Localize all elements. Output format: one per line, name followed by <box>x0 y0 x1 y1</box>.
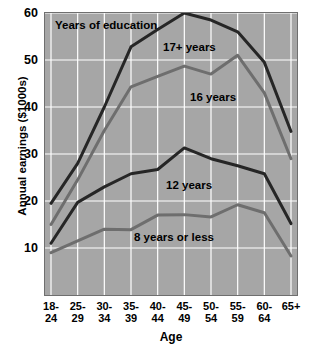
y-axis-tick-label: 50 <box>24 54 38 67</box>
y-axis-tick-label: 20 <box>24 195 38 208</box>
y-axis-tick-label: 30 <box>24 148 38 161</box>
x-axis-tick-label: 35- 39 <box>123 301 139 324</box>
x-axis-tick-label: 60- 64 <box>256 301 272 324</box>
x-axis-tick-label: 45- 49 <box>176 301 192 324</box>
series-label-16-years: 16 years <box>190 91 236 103</box>
x-axis-title: Age <box>44 330 298 344</box>
series-label-12-years: 12 years <box>166 179 212 191</box>
x-axis-tick-label: 18- 24 <box>43 301 59 324</box>
y-axis-tick-labels: 102030405060 <box>0 0 41 300</box>
series-label-17plus-years: 17+ years <box>163 41 216 53</box>
x-axis-tick-label: 30- 34 <box>96 301 112 324</box>
plot-area: Years of education 17+ years 16 years 12… <box>44 12 298 296</box>
x-axis-tick-label: 65+ <box>282 301 301 313</box>
x-axis-tick-labels: 18- 2425- 2930- 3435- 3940- 4445- 4950- … <box>44 299 298 333</box>
y-axis-tick-label: 10 <box>24 242 38 255</box>
x-axis-tick-label: 25- 29 <box>70 301 86 324</box>
earnings-by-education-chart: Annual earnings ($1000s) 102030405060 Ye… <box>0 0 310 346</box>
x-axis-tick-label: 50- 54 <box>203 301 219 324</box>
y-axis-tick-label: 60 <box>24 7 38 20</box>
x-axis-tick-label: 55- 59 <box>230 301 246 324</box>
series-line-16-years <box>51 55 291 224</box>
series-label-8-years-or-less: 8 years or less <box>134 231 214 243</box>
plot-svg <box>45 13 297 295</box>
legend-title-label: Years of education <box>55 19 157 31</box>
y-axis-tick-label: 40 <box>24 101 38 114</box>
x-axis-tick-label: 40- 44 <box>150 301 166 324</box>
